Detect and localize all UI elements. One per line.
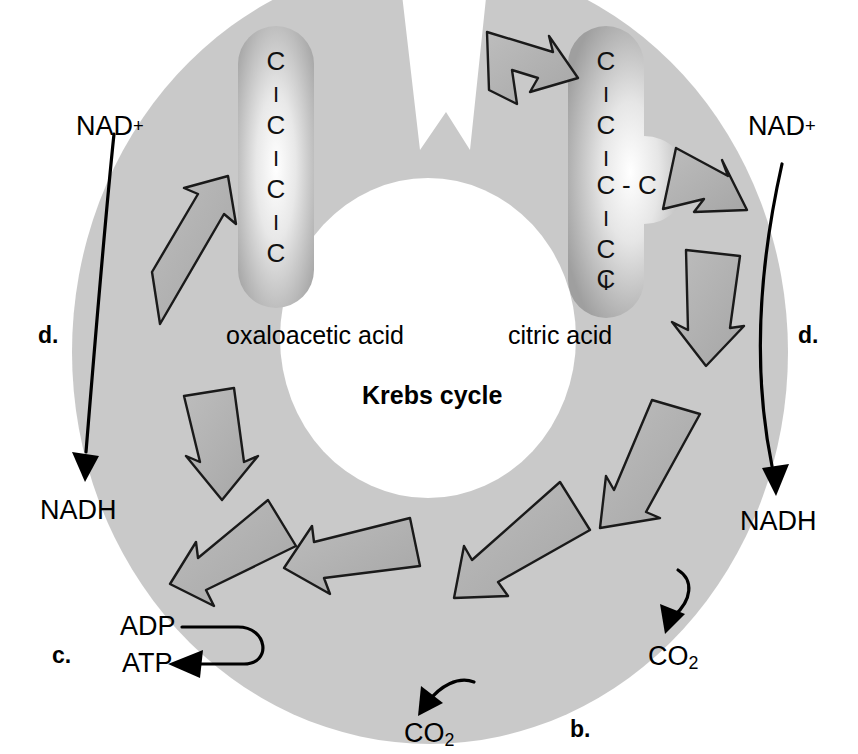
oxaloacetic-bond-1: I: [258, 84, 294, 106]
nad-right-text: NAD: [748, 111, 805, 141]
step-label-d-left: d.: [38, 324, 58, 347]
step-label-c: c.: [52, 644, 71, 667]
nad-right-charge: +: [805, 115, 816, 136]
oxaloacetic-bond-3: I: [258, 212, 294, 234]
oxaloacetic-carbon-3: C: [258, 176, 294, 202]
step-label-b: b.: [570, 718, 590, 741]
oxaloacetic-carbon-1: C: [258, 48, 294, 74]
nadh-right-label: NADH: [740, 508, 817, 535]
adp-label: ADP: [120, 613, 176, 640]
nad-plus-left-label: NAD+: [76, 113, 144, 140]
citric-carbon-4: C: [588, 236, 624, 262]
citric-carbon-2: C: [588, 112, 624, 138]
citric-carbon-5: C: [588, 266, 624, 292]
citric-carbon-3: C: [588, 172, 624, 198]
citric-acid-label: citric acid: [508, 323, 612, 348]
co2-right-subscript: 2: [689, 653, 699, 673]
co2-right-label: CO2: [648, 643, 698, 673]
oxaloacetic-carbon-4: C: [258, 240, 294, 266]
nadh-left-label: NADH: [40, 497, 117, 524]
citric-bond-2: I: [588, 148, 624, 170]
co2-bottom-subscript: 2: [445, 730, 455, 750]
citric-bond-3: I: [588, 208, 624, 230]
oxaloacetic-carbon-2: C: [258, 112, 294, 138]
co2-bottom-label: CO2: [404, 720, 454, 750]
citric-carbon-1: C: [588, 48, 624, 74]
co2-right-text: CO: [648, 641, 689, 671]
atp-label: ATP: [122, 650, 173, 677]
cycle-title: Krebs cycle: [362, 383, 502, 408]
citric-branch-carbon: - C: [622, 172, 682, 198]
nad-plus-right-label: NAD+: [748, 113, 816, 140]
oxaloacetic-bond-2: I: [258, 148, 294, 170]
nad-left-charge: +: [133, 115, 144, 136]
nad-left-text: NAD: [76, 111, 133, 141]
co2-bottom-text: CO: [404, 718, 445, 748]
step-label-d-right: d.: [798, 324, 818, 347]
krebs-cycle-diagram: C I C I C I C C I C I C - C I C I C oxal…: [0, 0, 858, 754]
oxaloacetic-acid-label: oxaloacetic acid: [226, 323, 404, 348]
citric-bond-1: I: [588, 84, 624, 106]
